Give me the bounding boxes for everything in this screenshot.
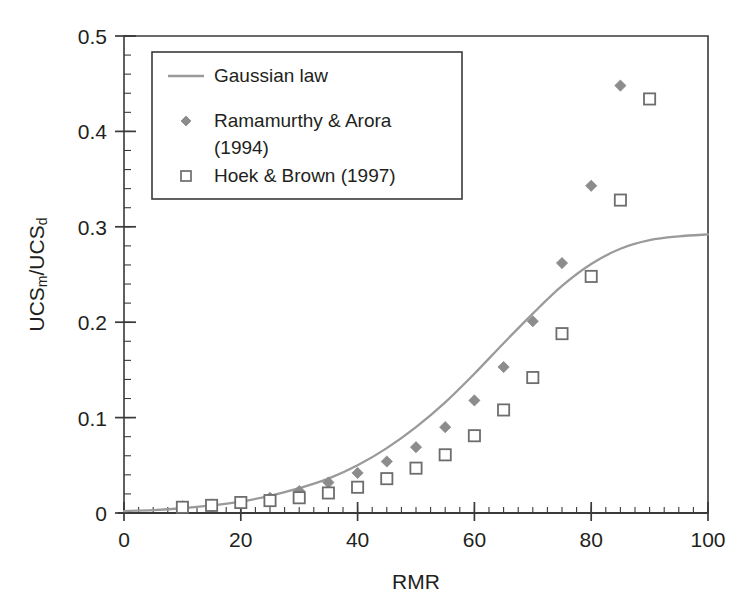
- x-tick-label: 0: [118, 528, 130, 551]
- data-point-square: [381, 473, 392, 484]
- y-tick-label: 0.3: [78, 216, 107, 239]
- x-tick-label: 20: [229, 528, 252, 551]
- data-point-diamond: [469, 395, 480, 406]
- y-axis-major-ticks: [115, 36, 136, 513]
- x-tick-label: 80: [580, 528, 603, 551]
- x-axis-title: RMR: [392, 570, 440, 593]
- legend-label-hoek-brown: Hoek & Brown (1997): [214, 165, 396, 186]
- data-point-diamond: [440, 422, 451, 433]
- chart-legend: Gaussian lawRamamurthy & Arora(1994)Hoek…: [152, 52, 462, 199]
- data-point-diamond: [352, 467, 363, 478]
- y-tick-label: 0.5: [78, 25, 107, 48]
- x-axis-title-text: RMR: [392, 570, 440, 593]
- y-tick-label: 0.1: [78, 407, 107, 430]
- data-point-square: [440, 449, 451, 460]
- data-point-square: [586, 271, 597, 282]
- x-tick-label: 40: [346, 528, 369, 551]
- x-tick-label: 60: [463, 528, 486, 551]
- y-axis-title: UCSm/UCSd: [25, 218, 50, 332]
- data-point-diamond: [381, 456, 392, 467]
- data-point-square: [294, 492, 305, 503]
- data-point-square: [264, 495, 275, 506]
- data-point-square: [235, 497, 246, 508]
- data-point-square: [206, 500, 217, 511]
- data-point-square: [410, 463, 421, 474]
- legend-label-ramamurthy-arora-year: (1994): [214, 137, 269, 158]
- legend-label-gaussian-law: Gaussian law: [214, 65, 328, 86]
- data-point-square: [644, 93, 655, 104]
- data-point-diamond: [498, 361, 509, 372]
- legend-marker-square: [181, 171, 191, 181]
- y-axis-tick-labels: 00.10.20.30.40.5: [78, 25, 108, 525]
- data-point-square: [352, 482, 363, 493]
- y-tick-label: 0: [95, 502, 107, 525]
- data-point-square: [556, 328, 567, 339]
- data-point-diamond: [615, 80, 626, 91]
- data-point-square: [323, 487, 334, 498]
- x-tick-label: 100: [690, 528, 725, 551]
- y-tick-label: 0.2: [78, 311, 107, 334]
- data-point-square: [498, 404, 509, 415]
- x-axis-tick-labels: 020406080100: [118, 528, 725, 551]
- y-tick-label: 0.4: [78, 120, 108, 143]
- y-axis-title-text: UCSm/UCSd: [25, 218, 50, 332]
- data-point-square: [615, 194, 626, 205]
- chart-figure: 020406080100 00.10.20.30.40.5 RMR UCSm/U…: [0, 0, 752, 599]
- data-point-diamond: [323, 477, 334, 488]
- data-point-diamond: [556, 257, 567, 268]
- legend-label-ramamurthy-arora: Ramamurthy & Arora: [214, 110, 392, 131]
- data-point-square: [177, 502, 188, 513]
- data-point-diamond: [410, 442, 421, 453]
- data-point-diamond: [586, 180, 597, 191]
- y-axis-minor-ticks: [124, 36, 131, 513]
- data-point-square: [527, 372, 538, 383]
- data-point-square: [469, 430, 480, 441]
- y-axis-title-rotated: UCSm/UCSd: [25, 218, 50, 332]
- scatter-plot: 020406080100 00.10.20.30.40.5 RMR UCSm/U…: [0, 0, 752, 599]
